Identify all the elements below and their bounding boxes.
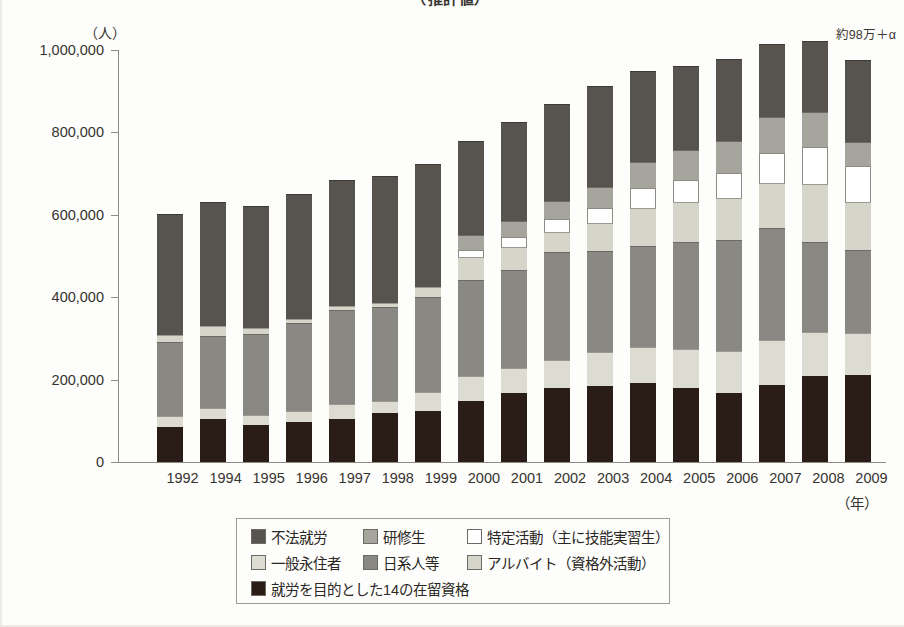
bar-segment: [501, 237, 527, 247]
bar-segment: [329, 404, 355, 420]
legend-label-nikkei: 日系人等: [383, 552, 439, 573]
legend-label-tokutei: 特定活動（主に技能実習生）: [487, 526, 669, 547]
bar-2008: [802, 41, 828, 462]
bar-segment: [759, 340, 785, 384]
bar-segment: [157, 335, 183, 342]
bar-segment: [458, 280, 484, 376]
bar-segment: [200, 419, 226, 462]
bar-segment: [544, 104, 570, 201]
bar-segment: [802, 41, 828, 112]
bar-segment: [587, 251, 613, 351]
bar-segment: [415, 411, 441, 463]
bar-segment: [845, 60, 871, 142]
bar-segment: [673, 242, 699, 348]
bar-segment: [329, 419, 355, 462]
legend-swatch-tokutei-icon: [467, 529, 482, 544]
y-axis-tick: [111, 380, 119, 381]
bar-segment: [501, 393, 527, 462]
y-axis-tick-label: 0: [96, 454, 104, 470]
bar-2005: [673, 66, 699, 462]
legend-label-kenshu: 研修生: [383, 526, 425, 547]
bar-1995: [243, 206, 269, 462]
legend-swatch-eiju-icon: [251, 555, 266, 570]
bar-1998: [372, 176, 398, 462]
bar-segment: [157, 342, 183, 416]
bar-segment: [759, 153, 785, 183]
chart-annotation-total: 約98万＋α: [836, 24, 896, 43]
bar-segment: [587, 223, 613, 251]
bar-segment: [716, 141, 742, 173]
legend-item-eiju[interactable]: 一般永住者: [251, 552, 363, 573]
bar-segment: [544, 201, 570, 220]
bar-segment: [716, 198, 742, 240]
legend-item-fuhou[interactable]: 不法就労: [251, 526, 363, 547]
bar-segment: [157, 427, 183, 462]
legend-swatch-fuhou-icon: [251, 529, 266, 544]
bar-segment: [587, 352, 613, 386]
bar-segment: [372, 176, 398, 303]
bar-segment: [759, 228, 785, 341]
y-axis-tick-label: 200,000: [52, 372, 104, 388]
y-axis-tick: [111, 215, 119, 216]
legend-item-nikkei[interactable]: 日系人等: [363, 552, 467, 573]
bar-segment: [759, 385, 785, 462]
bar-segment: [587, 86, 613, 187]
plot-area: 1,000,000800,000600,000400,000200,0000 1…: [118, 50, 886, 462]
bar-2001: [501, 122, 527, 462]
bar-segment: [673, 349, 699, 388]
bar-2007: [759, 44, 785, 462]
legend-swatch-shurou-icon: [251, 581, 266, 596]
bar-segment: [243, 206, 269, 328]
bar-segment: [544, 219, 570, 231]
bar-segment: [372, 401, 398, 413]
bar-segment: [716, 393, 742, 462]
legend-item-shurou[interactable]: 就労を目的とした14の在留資格: [251, 578, 469, 599]
bar-segment: [802, 184, 828, 243]
bar-segment: [243, 415, 269, 425]
x-axis-tick-label: 2009: [841, 470, 901, 486]
bar-segment: [630, 347, 656, 383]
y-axis-tick: [111, 462, 119, 463]
legend-row-2: 一般永住者 日系人等 アルバイト（資格外活動）: [251, 552, 669, 573]
bar-segment: [243, 334, 269, 415]
bar-1997: [329, 180, 355, 462]
bar-segment: [458, 376, 484, 402]
bar-2006: [716, 59, 742, 462]
bar-segment: [759, 44, 785, 117]
bar-segment: [501, 221, 527, 237]
bar-segment: [630, 188, 656, 207]
bar-2003: [587, 86, 613, 462]
y-axis-tick: [111, 132, 119, 133]
bar-segment: [716, 173, 742, 198]
y-axis-line: [118, 50, 119, 462]
bar-segment: [630, 208, 656, 246]
bar-segment: [587, 187, 613, 208]
bar-segment: [802, 376, 828, 462]
bar-segment: [716, 240, 742, 351]
y-axis-tick: [111, 297, 119, 298]
bar-2009: [845, 60, 871, 462]
legend-row-3: 就労を目的とした14の在留資格: [251, 578, 669, 599]
bar-segment: [759, 117, 785, 152]
y-axis-unit-label: （人）: [84, 22, 126, 42]
bar-1992: [157, 214, 183, 462]
bar-2004: [630, 71, 656, 462]
bar-segment: [845, 375, 871, 462]
y-axis-tick-label: 600,000: [52, 207, 104, 223]
legend-item-kenshu[interactable]: 研修生: [363, 526, 467, 547]
x-axis-line: [118, 462, 886, 463]
bar-segment: [372, 307, 398, 401]
bar-segment: [630, 71, 656, 162]
bar-segment: [544, 252, 570, 360]
bar-segment: [544, 388, 570, 462]
bar-2000: [458, 141, 484, 462]
bar-segment: [415, 392, 441, 411]
bar-segment: [802, 112, 828, 147]
bar-segment: [157, 416, 183, 427]
legend-label-arbeit: アルバイト（資格外活動）: [487, 552, 655, 573]
legend-item-tokutei[interactable]: 特定活動（主に技能実習生）: [467, 526, 669, 547]
bar-segment: [200, 326, 226, 336]
bar-1996: [286, 194, 312, 462]
bar-segment: [458, 235, 484, 250]
legend-item-arbeit[interactable]: アルバイト（資格外活動）: [467, 552, 655, 573]
